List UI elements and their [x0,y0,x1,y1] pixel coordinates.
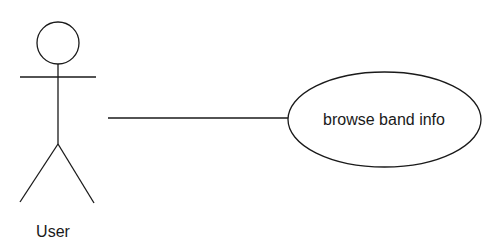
actor-left-leg [20,144,58,202]
actor-user [20,22,96,203]
actor-label: User [36,223,70,240]
actor-head [37,22,79,64]
actor-right-leg [58,144,94,203]
use-case-diagram: User browse band info [0,0,495,247]
use-case-label: browse band info [323,111,445,128]
